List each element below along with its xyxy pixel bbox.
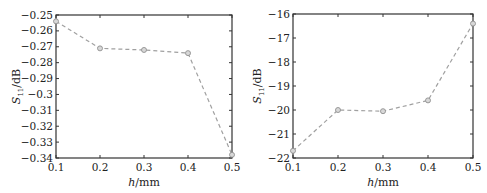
y-axis-label: S11/dB — [10, 69, 25, 104]
y-tick-label: −21 — [268, 128, 290, 140]
data-point-marker — [336, 108, 341, 113]
y-tick-label: −17 — [268, 32, 290, 44]
y-tick-label: −18 — [268, 56, 290, 68]
x-tick-label: 0.2 — [92, 161, 109, 173]
y-tick-label: −0.32 — [21, 120, 53, 132]
y-tick-label: −20 — [268, 104, 290, 116]
x-tick-label: 0.5 — [224, 161, 241, 173]
y-tick-label: −16 — [268, 8, 290, 20]
data-point-marker — [98, 46, 103, 51]
x-tick-label: 0.2 — [330, 161, 347, 173]
chart-svg: −16−17−18−19−20−21−220.10.20.30.40.5h/mm… — [243, 0, 487, 193]
chart-right-s11-db-range: −16−17−18−19−20−21−220.10.20.30.40.5h/mm… — [243, 0, 487, 193]
x-tick-label: 0.5 — [465, 161, 482, 173]
y-axis-label: S11/dB — [251, 68, 266, 103]
y-tick-label: −0.29 — [21, 72, 53, 84]
data-point-marker — [54, 19, 59, 24]
y-tick-label: −19 — [268, 80, 290, 92]
chart-svg: −0.25−0.26−0.27−0.28−0.29−0.3−0.31−0.32−… — [0, 0, 243, 193]
y-tick-label: −0.26 — [21, 24, 53, 36]
x-tick-label: 0.4 — [420, 161, 437, 173]
y-tick-label: −0.25 — [21, 9, 53, 21]
y-tick-label: −0.33 — [21, 136, 53, 148]
x-axis-label: h/mm — [128, 176, 160, 189]
x-tick-label: 0.1 — [48, 161, 65, 173]
data-point-marker — [186, 51, 191, 56]
y-tick-label: −0.27 — [21, 40, 53, 52]
chart-left-s11-small-range: −0.25−0.26−0.27−0.28−0.29−0.3−0.31−0.32−… — [0, 0, 243, 193]
series-line — [56, 21, 232, 154]
y-tick-label: −0.28 — [21, 56, 53, 68]
data-point-marker — [291, 148, 296, 153]
x-tick-label: 0.3 — [375, 161, 392, 173]
data-point-marker — [230, 152, 235, 157]
series-line — [293, 24, 473, 151]
x-axis-label: h/mm — [367, 176, 399, 189]
data-point-marker — [426, 98, 431, 103]
x-tick-label: 0.3 — [136, 161, 153, 173]
plot-frame — [56, 15, 232, 158]
data-point-marker — [142, 47, 147, 52]
plot-frame — [293, 14, 473, 158]
y-tick-label: −0.31 — [21, 104, 53, 116]
data-point-marker — [471, 21, 476, 26]
data-point-marker — [381, 109, 386, 114]
x-tick-label: 0.1 — [285, 161, 302, 173]
y-tick-label: −0.3 — [28, 88, 54, 100]
x-tick-label: 0.4 — [180, 161, 197, 173]
